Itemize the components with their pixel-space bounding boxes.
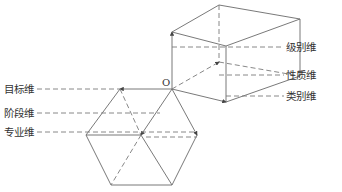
label-level: 级别维 bbox=[286, 41, 317, 53]
hex-edge-lower-right bbox=[172, 135, 197, 185]
hex-hidden-lower bbox=[111, 135, 141, 185]
label-category: 类别维 bbox=[286, 90, 317, 102]
diagram-svg: O 级别维 性质维 类别维 目标维 阶段维 专业维 bbox=[0, 0, 342, 192]
hex-inner-up bbox=[141, 89, 172, 135]
hex-edge-upper-right bbox=[172, 89, 197, 135]
cube-edge-front-top bbox=[172, 32, 226, 46]
hex-hidden-diagonal bbox=[120, 89, 141, 135]
cube-edge-top-back bbox=[219, 5, 300, 19]
cube-edge-front-bottom bbox=[172, 89, 226, 102]
hex-edge-lower-left bbox=[86, 135, 111, 185]
hex-inner-down bbox=[141, 135, 172, 185]
origin-label: O bbox=[162, 77, 170, 88]
label-specialty: 专业维 bbox=[4, 126, 35, 138]
cube-hidden-edge-diagonal bbox=[172, 62, 219, 89]
label-stage: 阶段维 bbox=[4, 107, 35, 119]
cube bbox=[172, 5, 300, 102]
hex-edge-upper-left bbox=[86, 89, 120, 135]
diagram-canvas: O 级别维 性质维 类别维 目标维 阶段维 专业维 bbox=[0, 0, 342, 192]
label-goal: 目标维 bbox=[4, 83, 35, 95]
cube-edge-top-left bbox=[172, 5, 219, 32]
label-nature: 性质维 bbox=[286, 69, 317, 81]
